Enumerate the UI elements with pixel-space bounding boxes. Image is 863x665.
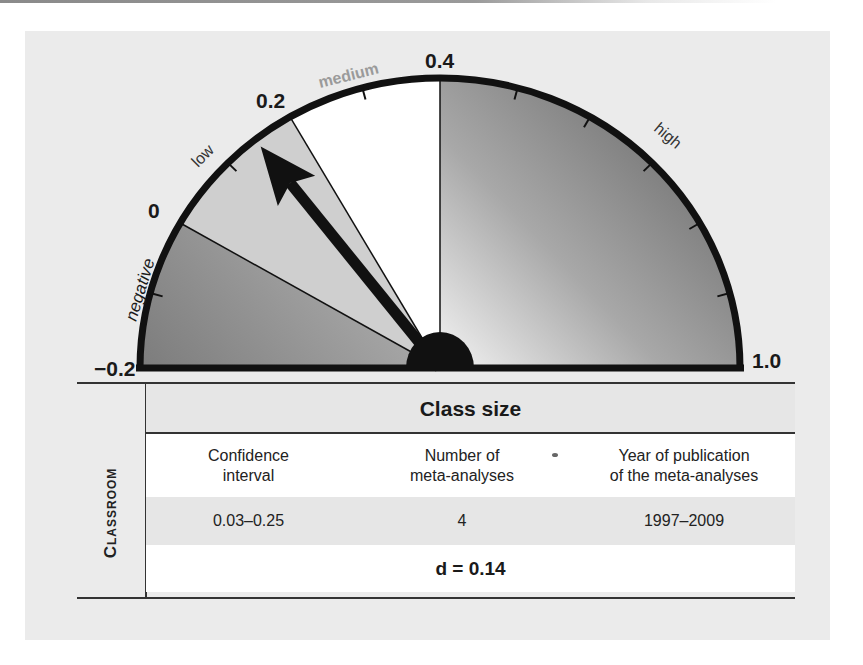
summary-table: Class size Confidenceinterval Number ofm… xyxy=(0,0,863,665)
dot-mark xyxy=(552,453,558,457)
value-confidence-interval: 0.03–0.25 xyxy=(146,511,351,531)
table-header-row: Confidenceinterval Number ofmeta-analyse… xyxy=(146,434,795,497)
header-year-publication: Year of publicationof the meta-analyses xyxy=(573,446,795,486)
value-number-meta-analyses: 4 xyxy=(351,511,573,531)
table-title: Class size xyxy=(146,384,795,433)
value-years: 1997–2009 xyxy=(573,511,795,531)
effect-size-value: d = 0.14 xyxy=(146,545,795,592)
table-row: 0.03–0.25 4 1997–2009 xyxy=(146,497,795,545)
header-number-meta-analyses: Number ofmeta-analyses xyxy=(351,446,573,486)
header-confidence-interval: Confidenceinterval xyxy=(146,446,351,486)
side-label-classroom: Classroom xyxy=(77,433,146,592)
